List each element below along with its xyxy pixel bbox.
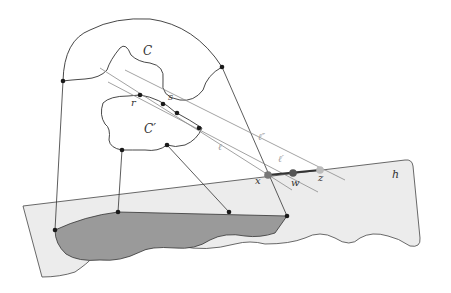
label-C-prime: C′	[144, 122, 156, 136]
point-x	[264, 171, 272, 179]
label-C: C	[143, 44, 152, 58]
label-z: z	[317, 172, 324, 183]
label-s: s	[168, 91, 173, 102]
shadow-region	[55, 212, 287, 260]
point-w	[289, 169, 297, 177]
diagram-canvas: C C′ r s ℓ ℓ′ ℓ″ x w z h	[0, 0, 451, 293]
label-h: h	[392, 168, 399, 181]
label-r: r	[131, 97, 137, 108]
label-x: x	[255, 175, 261, 186]
label-l-double-prime: ℓ″	[258, 132, 266, 142]
label-l-prime: ℓ′	[278, 154, 284, 164]
projection-diagram: C C′ r s ℓ ℓ′ ℓ″ x w z h	[0, 0, 451, 293]
line-l-prime	[108, 82, 318, 192]
label-l: ℓ	[218, 142, 222, 152]
line-l-double-prime	[125, 70, 345, 180]
label-w: w	[291, 177, 300, 188]
line-l	[100, 68, 292, 190]
object-C	[63, 19, 222, 101]
